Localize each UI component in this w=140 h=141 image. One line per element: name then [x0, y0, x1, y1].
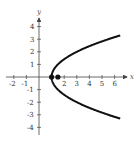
svg-text:4: 4 — [87, 80, 92, 88]
svg-text:4: 4 — [30, 23, 35, 31]
svg-text:1: 1 — [30, 61, 34, 69]
svg-text:-3: -3 — [27, 111, 34, 119]
parabola-curve — [52, 35, 121, 77]
svg-text:2: 2 — [62, 80, 66, 88]
svg-text:5: 5 — [100, 80, 104, 88]
svg-text:-2: -2 — [9, 80, 16, 88]
svg-text:2: 2 — [30, 48, 34, 56]
vertex-point — [49, 74, 54, 79]
svg-text:3: 3 — [75, 80, 79, 88]
svg-text:3: 3 — [30, 36, 34, 44]
x-axis-label: x — [130, 73, 134, 81]
parabola-chart: -2 -1 2 3 4 5 6 4 3 2 1 -1 -2 -3 -4 x y — [0, 0, 140, 141]
x-tick-labels: -2 -1 2 3 4 5 6 — [9, 80, 117, 88]
focus-point — [55, 74, 60, 79]
svg-text:-2: -2 — [27, 99, 34, 107]
svg-text:-4: -4 — [27, 124, 34, 132]
svg-text:-1: -1 — [27, 86, 34, 94]
y-axis-label: y — [36, 8, 42, 16]
svg-text:6: 6 — [112, 80, 117, 88]
